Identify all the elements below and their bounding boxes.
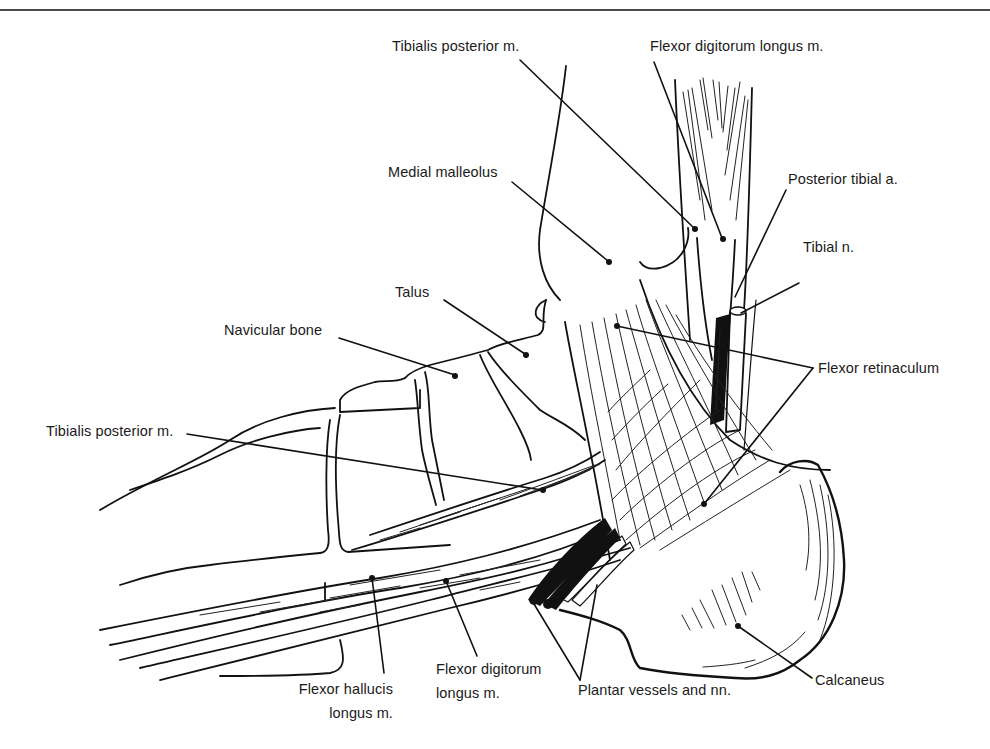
tibia-outline (536, 66, 689, 322)
label-flexor-digitorum-longus-top: Flexor digitorum longus m. (650, 38, 823, 55)
label-medial-malleolus: Medial malleolus (388, 164, 498, 181)
flexor-digitorum-longus-muscle (675, 78, 752, 360)
label-plantar-vessels: Plantar vessels and nn. (578, 682, 731, 699)
label-flexor-retinaculum: Flexor retinaculum (818, 360, 939, 377)
label-tibial-nerve: Tibial n. (803, 239, 854, 256)
label-tibialis-posterior-top: Tibialis posterior m. (392, 38, 519, 55)
calcaneus-bone (560, 461, 844, 679)
label-posterior-tibial-artery: Posterior tibial a. (788, 171, 898, 188)
label-flexor-digitorum-longus-bottom-line1: Flexor digitorum (436, 661, 542, 678)
label-flexor-hallucis-longus-line1: Flexor hallucis (260, 681, 393, 698)
label-calcaneus: Calcaneus (815, 672, 884, 689)
label-navicular-bone: Navicular bone (224, 322, 322, 339)
label-flexor-hallucis-longus-line2: longus m. (260, 705, 393, 722)
flexor-retinaculum-band (565, 280, 830, 560)
label-talus: Talus (395, 284, 429, 301)
label-flexor-digitorum-longus-bottom-line2: longus m. (436, 685, 500, 702)
label-tibialis-posterior-left: Tibialis posterior m. (46, 423, 173, 440)
